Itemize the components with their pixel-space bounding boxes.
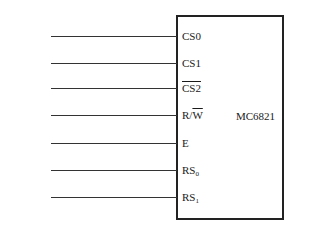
wire-vma-cs0 xyxy=(51,36,177,37)
pin-cs1: CS1 xyxy=(182,56,201,70)
wire-a0-rs0 xyxy=(51,170,177,171)
pin-rs1: RS1 xyxy=(182,190,199,208)
pin-cs0: CS0 xyxy=(182,29,201,43)
wire-phi2-e xyxy=(51,143,177,144)
pin-rs0: RS0 xyxy=(182,163,199,181)
pin-e: E xyxy=(182,136,189,150)
wire-rw xyxy=(51,115,177,116)
pin-rw: R/W xyxy=(182,108,203,122)
chip-name: MC6821 xyxy=(236,109,275,123)
wire-a14-cs1 xyxy=(51,63,177,64)
wire-a15-cs2 xyxy=(51,88,177,89)
pin-cs2-active-low: CS2 xyxy=(182,81,201,95)
wire-a1-rs1 xyxy=(51,197,177,198)
